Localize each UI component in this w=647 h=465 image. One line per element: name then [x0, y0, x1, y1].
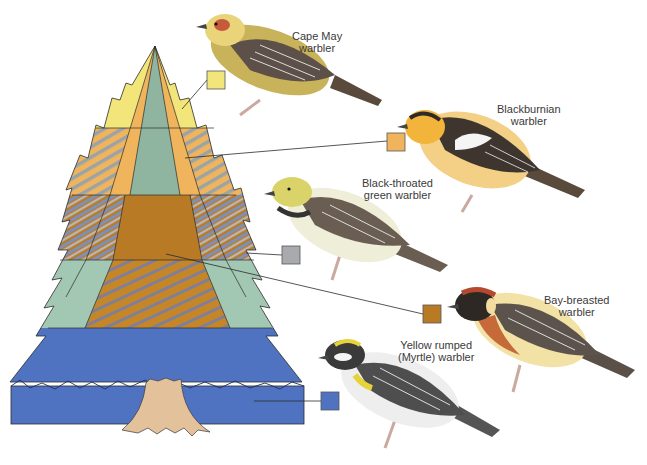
swatch-cape-may — [207, 71, 225, 89]
label-cape-may: Cape May warbler — [292, 30, 342, 54]
label-line: warbler — [292, 42, 342, 54]
label-line: Bay-breasted — [544, 294, 609, 306]
label-line: Yellow rumped — [398, 339, 474, 351]
label-line: green warbler — [362, 189, 433, 201]
label-bay-breasted: Bay-breasted warbler — [544, 294, 609, 318]
swatch-blackburnian — [387, 133, 405, 151]
spruce-tree — [0, 40, 320, 436]
label-blackburnian: Blackburnian warbler — [497, 103, 561, 127]
bird-cape-may — [196, 11, 382, 115]
label-line: Cape May — [292, 30, 342, 42]
label-line: Black-throated — [362, 177, 433, 189]
zone-bay-breasted — [113, 195, 202, 260]
warbler-diagram — [0, 0, 647, 465]
label-line: Blackburnian — [497, 103, 561, 115]
label-line: warbler — [497, 115, 561, 127]
label-yellow-rumped: Yellow rumped (Myrtle) warbler — [398, 339, 474, 363]
label-black-throated-green: Black-throated green warbler — [362, 177, 433, 201]
swatch-yellow-rumped — [321, 392, 339, 410]
label-line: (Myrtle) warbler — [398, 351, 474, 363]
label-line: warbler — [544, 306, 609, 318]
swatch-bay-breasted — [423, 305, 441, 323]
swatch-black-throated-green — [282, 246, 300, 264]
